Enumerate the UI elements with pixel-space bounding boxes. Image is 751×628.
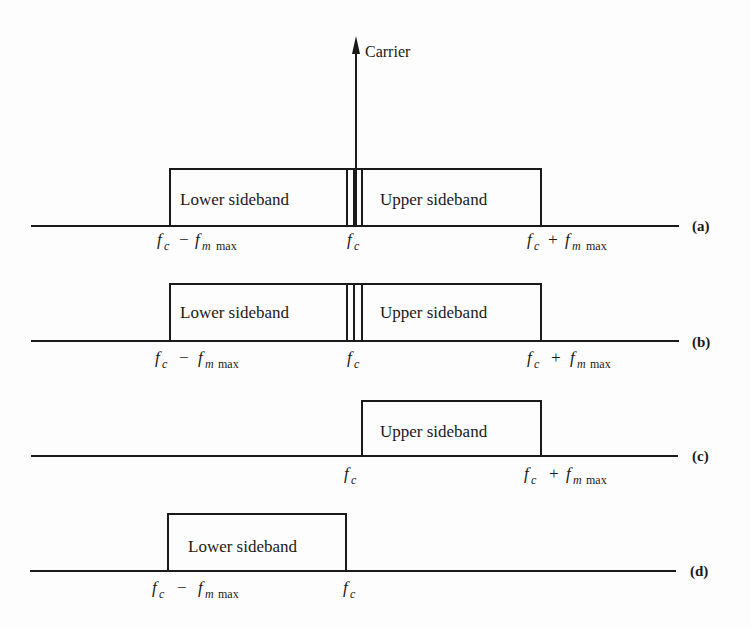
max-subscript: max [586, 473, 607, 487]
tick-upper-c: f c + f m max [524, 464, 607, 487]
minus-sign: − [178, 230, 189, 249]
max-subscript: max [218, 357, 239, 371]
panel-a: Carrier Lower sideband Upper sideband f … [31, 36, 710, 253]
tick-lower-d: f c − f m max [152, 578, 239, 601]
f-symbol: f [152, 578, 159, 597]
minus-sign: − [176, 578, 187, 597]
f-symbol: f [347, 348, 354, 367]
upper-sideband-label-c: Upper sideband [380, 422, 488, 441]
panel-tag-c: (c) [692, 448, 709, 465]
lower-sideband-label-d: Lower sideband [188, 537, 298, 556]
tick-center-a: f c [347, 230, 360, 253]
plus-sign: + [548, 464, 559, 483]
sideband-spectrum-diagram: Carrier Lower sideband Upper sideband f … [0, 0, 751, 628]
plus-sign: + [550, 348, 561, 367]
c-subscript: c [534, 357, 540, 371]
tick-lower-a: f c − f m max [157, 230, 237, 253]
f-symbol: f [344, 464, 351, 483]
tick-center-c: f c [344, 464, 357, 487]
panel-d: Lower sideband f c − f m max f c (d) [30, 514, 708, 601]
diagram-svg: Carrier Lower sideband Upper sideband f … [0, 0, 751, 628]
f-symbol: f [198, 348, 205, 367]
carrier-label: Carrier [365, 43, 411, 60]
panel-tag-d: (d) [690, 563, 708, 580]
panel-tag-b: (b) [692, 334, 710, 351]
c-subscript: c [162, 357, 168, 371]
f-symbol: f [198, 578, 205, 597]
minus-sign: − [178, 348, 189, 367]
f-symbol: f [527, 230, 534, 249]
f-symbol: f [155, 348, 162, 367]
lower-sideband-label-a: Lower sideband [180, 190, 290, 209]
c-subscript: c [164, 239, 170, 253]
f-symbol: f [157, 230, 164, 249]
upper-sideband-label-a: Upper sideband [380, 190, 488, 209]
c-subscript: c [354, 357, 360, 371]
upper-sideband-label-b: Upper sideband [380, 303, 488, 322]
plus-sign: + [547, 230, 558, 249]
max-subscript: max [586, 239, 607, 253]
f-symbol: f [565, 230, 572, 249]
f-symbol: f [566, 464, 573, 483]
f-symbol: f [343, 578, 350, 597]
panel-c: Upper sideband f c f c + f m max (c) [31, 401, 709, 487]
c-subscript: c [354, 239, 360, 253]
panel-tag-a: (a) [692, 218, 710, 235]
m-subscript: m [577, 357, 586, 371]
c-subscript: c [350, 587, 356, 601]
m-subscript: m [573, 473, 582, 487]
tick-center-d: f c [343, 578, 356, 601]
f-symbol: f [524, 464, 531, 483]
tick-upper-a: f c + f m max [527, 230, 607, 253]
tick-lower-b: f c − f m max [155, 348, 239, 371]
c-subscript: c [534, 239, 540, 253]
max-subscript: max [590, 357, 611, 371]
f-symbol: f [347, 230, 354, 249]
tick-upper-b: f c + f m max [527, 348, 611, 371]
tick-center-b: f c [347, 348, 360, 371]
m-subscript: m [205, 587, 214, 601]
lower-sideband-label-b: Lower sideband [180, 303, 290, 322]
max-subscript: max [218, 587, 239, 601]
carrier-arrow-icon [352, 36, 360, 54]
max-subscript: max [216, 239, 237, 253]
f-symbol: f [195, 230, 202, 249]
m-subscript: m [205, 357, 214, 371]
panel-b: Lower sideband Upper sideband f c − f m … [31, 284, 710, 371]
c-subscript: c [159, 587, 165, 601]
f-symbol: f [570, 348, 577, 367]
m-subscript: m [572, 239, 581, 253]
f-symbol: f [527, 348, 534, 367]
c-subscript: c [531, 473, 537, 487]
c-subscript: c [351, 473, 357, 487]
m-subscript: m [202, 239, 211, 253]
